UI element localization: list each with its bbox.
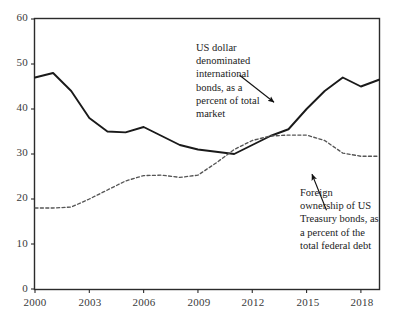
chart-figure: 60 50 40 30 20 10 0 2000 2003 2006 2009 … [0, 0, 398, 321]
x-tick-label-2006: 2006 [124, 296, 164, 308]
y-tick-label-60: 60 [2, 11, 28, 23]
x-tick-label-2012: 2012 [233, 296, 273, 308]
x-tick-label-2018: 2018 [342, 296, 382, 308]
y-tick-label-10: 10 [2, 237, 28, 249]
y-tick-label-50: 50 [2, 56, 28, 68]
x-tick-label-2003: 2003 [70, 296, 110, 308]
x-tick-label-2009: 2009 [179, 296, 219, 308]
y-tick-label-40: 40 [2, 101, 28, 113]
x-tick-label-2000: 2000 [15, 296, 55, 308]
y-tick-label-30: 30 [2, 146, 28, 158]
annotation-usd-bonds-label: US dollar denominated international bond… [196, 41, 288, 120]
y-tick-label-20: 20 [2, 191, 28, 203]
annotation-foreign-treasury-label: Foreign ownership of US Treasury bonds, … [300, 186, 396, 252]
y-tick-label-0: 0 [2, 282, 28, 294]
x-tick-label-2015: 2015 [288, 296, 328, 308]
